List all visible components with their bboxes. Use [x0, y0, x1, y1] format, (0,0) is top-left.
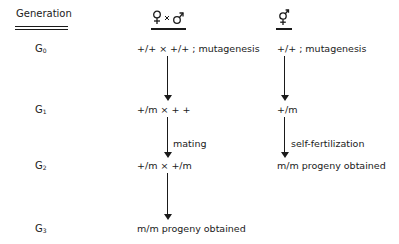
selfing-g0-text: +/+ ; mutagenesis	[277, 43, 366, 54]
generation-g1: G1	[35, 104, 47, 115]
cross-arrow-g1-g2-shaft	[167, 117, 168, 153]
selfing-arrow-g0-g1-shaft	[284, 56, 285, 96]
cross-g0-text: +/+ × +/+ ; mutagenesis	[137, 43, 260, 54]
venus-icon	[154, 11, 161, 24]
selfing-g2-text: m/m progeny obtained	[277, 160, 386, 171]
cross-arrow-g0-g1-head	[164, 95, 172, 101]
generation-g0: G0	[35, 43, 47, 54]
hermaphrodite-icon	[280, 10, 289, 25]
selfing-arrow-g1-g2-shaft	[284, 117, 285, 153]
cross-g3-text: m/m progeny obtained	[137, 223, 246, 234]
cross-icon	[165, 16, 169, 20]
generation-header: Generation	[16, 8, 72, 19]
cross-g2-text: +/m × +/m	[137, 160, 192, 171]
generation-underline-top	[15, 26, 68, 27]
mating-label: mating	[173, 138, 207, 149]
selfing-g1-text: +/m	[277, 104, 297, 115]
generation-g3: G3	[35, 223, 47, 234]
cross-arrow-g2-g3-head	[164, 214, 172, 220]
selfing-arrow-g0-g1-head	[281, 95, 289, 101]
cross-arrow-g1-g2-head	[164, 152, 172, 158]
cross-column-underline	[151, 28, 186, 30]
cross-arrow-g0-g1-shaft	[167, 56, 168, 96]
generation-underline-bottom	[15, 29, 68, 31]
mars-icon	[174, 13, 183, 23]
self-fertilization-label: self-fertilization	[291, 138, 364, 149]
cross-column-header	[151, 10, 187, 26]
cross-arrow-g2-g3-shaft	[167, 173, 168, 215]
selfing-arrow-g1-g2-head	[281, 152, 289, 158]
generation-g2: G2	[35, 160, 47, 171]
cross-g1-text: +/m × + +	[137, 104, 190, 115]
selfing-column-header	[276, 8, 292, 26]
selfing-column-underline	[276, 28, 292, 30]
